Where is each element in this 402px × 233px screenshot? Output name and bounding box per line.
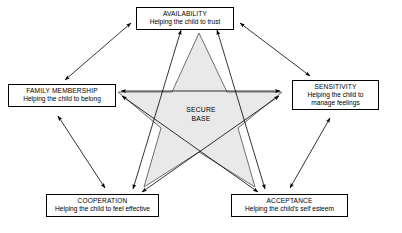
node-cooperation-subtitle: Helping the child to feel effective: [51, 205, 154, 213]
node-availability[interactable]: AVAILABILITY Helping the child to trust: [136, 7, 234, 30]
node-availability-title: AVAILABILITY: [141, 10, 229, 18]
node-sensitivity-subtitle-line2: manage feelings: [297, 99, 374, 107]
arrow-family-cooperation: [58, 116, 105, 188]
secure-base-diagram: AVAILABILITY Helping the child to trust …: [0, 0, 402, 233]
node-acceptance-subtitle: Helping the child's self esteem: [236, 205, 343, 213]
node-availability-subtitle: Helping the child to trust: [141, 18, 229, 26]
node-sensitivity-subtitle-line1: Helping the child to: [297, 91, 374, 99]
node-sensitivity-title: SENSITIVITY: [297, 83, 374, 91]
node-family-membership-subtitle: Helping the child to belong: [13, 95, 111, 103]
arrow-availability-sensitivity: [240, 23, 310, 76]
arrow-sensitivity-acceptance: [290, 118, 330, 188]
node-cooperation-title: COOPERATION: [51, 197, 154, 205]
node-family-membership[interactable]: FAMILY MEMBERSHIP Helping the child to b…: [8, 84, 116, 107]
arrow-family-availability: [65, 23, 131, 80]
node-cooperation[interactable]: COOPERATION Helping the child to feel ef…: [46, 194, 159, 217]
node-family-membership-title: FAMILY MEMBERSHIP: [13, 87, 111, 95]
node-acceptance[interactable]: ACCEPTANCE Helping the child's self este…: [231, 194, 348, 217]
node-acceptance-title: ACCEPTANCE: [236, 197, 343, 205]
node-sensitivity[interactable]: SENSITIVITY Helping the child to manage …: [292, 80, 379, 110]
